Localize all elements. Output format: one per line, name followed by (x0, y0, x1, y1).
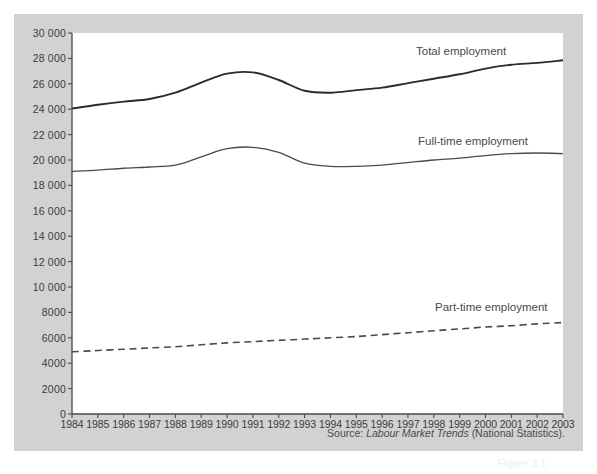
x-tick-label: 1993 (293, 418, 316, 430)
series-label-total-employment: Total employment (416, 45, 506, 57)
x-tick-label: 1990 (216, 418, 239, 430)
series-line-part-time-employment (72, 323, 563, 352)
y-tick-label: 8000 (42, 306, 66, 318)
x-tick-label: 1992 (267, 418, 290, 430)
series-line-full-time-employment (72, 147, 563, 171)
y-tick-label: 10 000 (33, 281, 66, 293)
figure-caption-partial: Figure 3.1 (497, 457, 547, 469)
figure-panel: 0200040006000800010 00012 00014 00016 00… (14, 14, 583, 451)
y-tick-label: 12 000 (33, 256, 66, 268)
x-tick-label: 1989 (190, 418, 213, 430)
y-tick-label: 20 000 (33, 154, 66, 166)
y-tick-label: 28 000 (33, 52, 66, 64)
x-tick-label: 1986 (112, 418, 135, 430)
series-label-full-time-employment: Full-time employment (418, 135, 528, 147)
x-tick-label: 1987 (138, 418, 161, 430)
y-tick-label: 24 000 (33, 103, 66, 115)
source-note: Source: Labour Market Trends (National S… (327, 427, 565, 439)
x-tick-label: 1985 (86, 418, 109, 430)
source-suffix: (National Statistics). (472, 427, 565, 439)
y-axis-tick-labels: 0200040006000800010 00012 00014 00016 00… (14, 14, 66, 451)
y-tick-label: 18 000 (33, 179, 66, 191)
line-chart-svg (72, 33, 563, 414)
x-tick-label: 1984 (61, 418, 84, 430)
y-tick-label: 22 000 (33, 129, 66, 141)
y-tick-label: 26 000 (33, 78, 66, 90)
y-tick-label: 16 000 (33, 205, 66, 217)
x-tick-label: 1991 (241, 418, 264, 430)
source-publication-title: Labour Market Trends (366, 427, 469, 439)
series-line-total-employment (72, 60, 563, 108)
y-tick-label: 2000 (42, 383, 66, 395)
y-tick-label: 6000 (42, 332, 66, 344)
y-tick-label: 14 000 (33, 230, 66, 242)
y-tick-label: 4000 (42, 357, 66, 369)
series-label-part-time-employment: Part-time employment (435, 301, 547, 313)
y-tick-label: 30 000 (33, 27, 66, 39)
source-prefix: Source: (327, 427, 363, 439)
x-tick-label: 1988 (164, 418, 187, 430)
plot-area (72, 33, 563, 414)
